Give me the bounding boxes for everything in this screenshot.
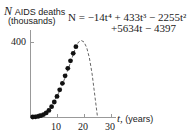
data-points [30,44,78,119]
data-point [65,66,70,71]
data-point [57,87,62,92]
data-point [60,81,65,86]
data-point [68,58,73,63]
data-point [63,73,68,78]
axes [30,30,116,118]
data-point [52,100,57,105]
data-point [49,104,54,109]
data-point [71,51,76,56]
data-point [74,44,79,49]
model-curve [33,41,98,118]
data-point [55,94,60,99]
plot-area [0,0,190,138]
